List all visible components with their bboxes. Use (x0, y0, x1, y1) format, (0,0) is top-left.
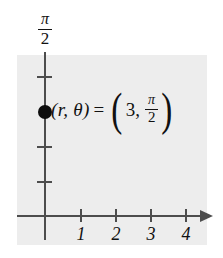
y-axis-tick-1 (37, 181, 52, 183)
x-axis-arrow-icon (200, 210, 213, 222)
x-axis-tick-2 (115, 209, 117, 222)
pi-over-two-fraction: π 2 (38, 11, 53, 48)
polar-point-figure: π 2 1 2 3 4 (r, θ) = ( 3, π 2 ) (0, 0, 223, 258)
annotation-open-paren: ( (111, 93, 122, 126)
x-tick-label-1: 1 (71, 224, 91, 245)
fraction-numerator: π (38, 11, 53, 28)
fraction-denominator: 2 (38, 30, 53, 48)
x-tick-label-3: 3 (141, 224, 161, 245)
y-axis-tick-2 (37, 146, 52, 148)
annotation-radius: 3, (126, 99, 140, 121)
angle-numerator: π (145, 93, 159, 108)
annotation-angle-fraction: π 2 (145, 93, 159, 126)
angle-denominator: 2 (145, 110, 159, 126)
point-annotation: (r, θ) = ( 3, π 2 ) (51, 93, 175, 126)
annotation-equals: = (94, 99, 105, 121)
x-axis-tick-4 (185, 209, 187, 222)
x-axis-line (17, 215, 202, 217)
x-tick-label-2: 2 (106, 224, 126, 245)
x-tick-label-4: 4 (176, 224, 196, 245)
annotation-close-paren: ) (162, 93, 173, 126)
x-axis-tick-1 (80, 209, 82, 222)
x-axis-tick-3 (150, 209, 152, 222)
vertical-axis-label: π 2 (30, 11, 60, 48)
annotation-coordinate-pair: 3, π 2 (126, 93, 159, 126)
plotted-point-marker (38, 105, 52, 119)
annotation-lhs: (r, θ) (51, 99, 90, 121)
y-axis-tick-4 (37, 76, 52, 78)
